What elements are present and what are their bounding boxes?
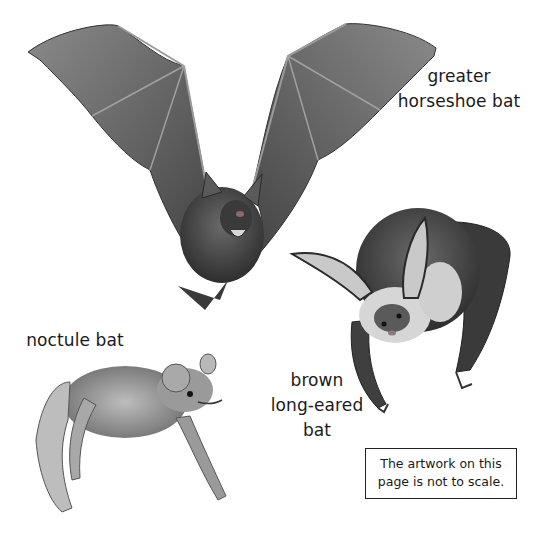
noctule-bat-illustration: [36, 354, 226, 512]
label-line: noctule bat: [20, 328, 130, 353]
label-line: bat: [262, 418, 372, 443]
note-line: page is not to scale.: [366, 473, 516, 491]
brown-long-eared-bat-label: brown long-eared bat: [262, 368, 372, 443]
label-line: horseshoe bat: [384, 89, 534, 114]
note-line: The artwork on this: [366, 455, 516, 473]
greater-horseshoe-bat-label: greater horseshoe bat: [384, 64, 534, 114]
bat-illustration-page: greater horseshoe bat noctule bat brown …: [0, 0, 536, 535]
label-line: long-eared: [262, 393, 372, 418]
label-line: greater: [384, 64, 534, 89]
label-line: brown: [262, 368, 372, 393]
scale-disclaimer-box: The artwork on this page is not to scale…: [365, 448, 517, 499]
noctule-bat-label: noctule bat: [20, 328, 130, 353]
